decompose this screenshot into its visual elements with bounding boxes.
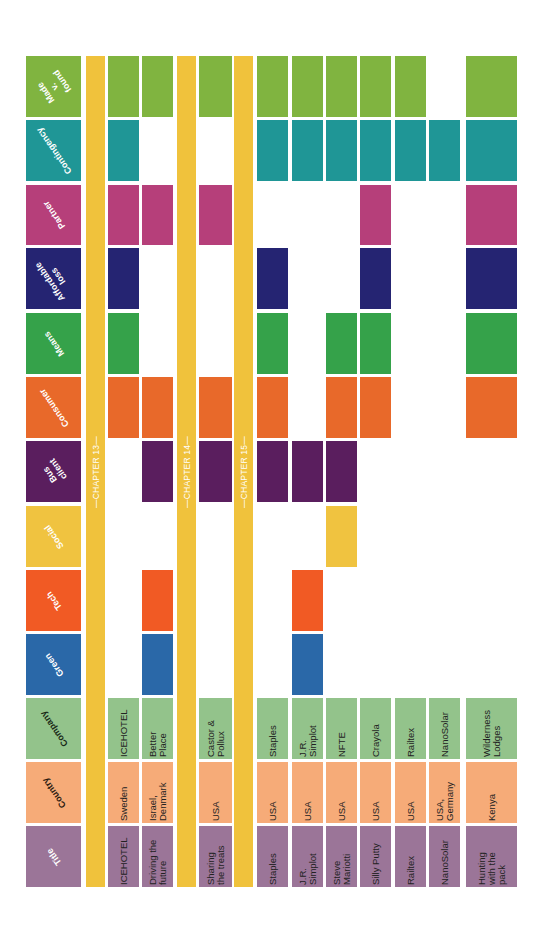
- cell-label: Contingency: [34, 125, 73, 175]
- cell-label: USA: [303, 765, 313, 821]
- company-cell: ICEHOTEL: [108, 698, 139, 759]
- cell-label: ICEHOTEL: [119, 701, 129, 757]
- made-v-found-marker: [108, 56, 139, 117]
- cell-label: Wilderness Lodges: [482, 701, 502, 757]
- company-cell: Crayola: [360, 698, 391, 759]
- cell-label: Bus client: [39, 456, 69, 487]
- cell-label: ICEHOTEL: [119, 829, 129, 885]
- green-marker: [292, 634, 323, 695]
- country-cell: USA: [292, 762, 323, 823]
- contingency-marker: [292, 120, 323, 181]
- header-social: Social: [26, 506, 81, 567]
- cell-label: Consumer: [37, 386, 71, 428]
- consumer-marker: [142, 377, 173, 438]
- cell-label: Means: [41, 329, 65, 358]
- made-v-found-marker: [326, 56, 357, 117]
- title-cell: Driving the future: [142, 826, 173, 887]
- header-consumer: Consumer: [26, 377, 81, 438]
- cell-label: USA: [371, 765, 381, 821]
- title-cell: Staples: [257, 826, 288, 887]
- cell-label: Railtex: [406, 829, 416, 885]
- title-cell: Railtex: [395, 826, 426, 887]
- cell-label: Country: [40, 776, 68, 810]
- cell-label: NFTE: [337, 701, 347, 757]
- chapter-divider: —CHAPTER 15—: [234, 56, 253, 887]
- company-cell: NFTE: [326, 698, 357, 759]
- bus-client-marker: [292, 441, 323, 502]
- consumer-marker: [108, 377, 139, 438]
- header-contingency: Contingency: [26, 120, 81, 181]
- social-marker: [326, 506, 357, 567]
- cell-label: J.R. Simplot: [298, 701, 318, 757]
- header-title: Title: [26, 826, 81, 887]
- header-affordable-loss: Affordable loss: [26, 248, 81, 309]
- chapter-label: —CHAPTER 15—: [239, 436, 249, 508]
- cell-label: USA, Germany: [435, 765, 455, 821]
- cell-label: Partner: [40, 199, 66, 231]
- means-marker: [360, 313, 391, 374]
- cell-label: Green: [42, 651, 65, 678]
- cell-label: Hunting with the pack: [477, 829, 507, 885]
- cell-label: Castor & Pollux: [206, 701, 226, 757]
- cell-label: NanoSolar: [440, 701, 450, 757]
- contingency-marker: [108, 120, 139, 181]
- means-marker: [326, 313, 357, 374]
- chapter-divider: —CHAPTER 13—: [86, 56, 105, 887]
- means-marker: [466, 313, 517, 374]
- tech-marker: [142, 570, 173, 631]
- country-cell: Kenya: [466, 762, 517, 823]
- title-cell: NanoSolar: [429, 826, 460, 887]
- means-marker: [257, 313, 288, 374]
- country-cell: USA: [326, 762, 357, 823]
- partner-marker: [108, 185, 139, 245]
- country-cell: Sweden: [108, 762, 139, 823]
- cell-label: Better Place: [148, 701, 168, 757]
- affordable-loss-marker: [257, 248, 288, 309]
- header-made-v-found: Made v. found: [26, 56, 81, 117]
- case-attribute-matrix: TitleCountryCompanyGreenTechSocialBus cl…: [0, 0, 543, 934]
- cell-label: Silly Putty: [371, 829, 381, 885]
- green-marker: [142, 634, 173, 695]
- cell-label: NanoSolar: [440, 829, 450, 885]
- company-cell: Better Place: [142, 698, 173, 759]
- chapter-divider: —CHAPTER 14—: [177, 56, 196, 887]
- bus-client-marker: [326, 441, 357, 502]
- country-cell: USA: [360, 762, 391, 823]
- cell-label: USA: [337, 765, 347, 821]
- title-cell: Hunting with the pack: [466, 826, 517, 887]
- cell-label: USA: [406, 765, 416, 821]
- title-cell: ICEHOTEL: [108, 826, 139, 887]
- bus-client-marker: [199, 441, 232, 502]
- country-cell: USA: [257, 762, 288, 823]
- chapter-label: —CHAPTER 14—: [182, 436, 192, 508]
- cell-label: Social: [42, 523, 65, 550]
- title-cell: Silly Putty: [360, 826, 391, 887]
- title-cell: Steve Mariotti: [326, 826, 357, 887]
- cell-label: J.R. Simplot: [298, 829, 318, 885]
- cell-label: Title: [44, 846, 63, 867]
- header-country: Country: [26, 762, 81, 823]
- contingency-marker: [360, 120, 391, 181]
- consumer-marker: [257, 377, 288, 438]
- cell-label: Kenya: [487, 765, 497, 821]
- cell-label: USA: [268, 765, 278, 821]
- company-cell: J.R. Simplot: [292, 698, 323, 759]
- cell-label: Sharing the treats: [206, 829, 226, 885]
- header-company: Company: [26, 698, 81, 759]
- made-v-found-marker: [142, 56, 173, 117]
- cell-label: Made v. found: [33, 67, 73, 107]
- partner-marker: [466, 185, 517, 245]
- cell-label: Affordable loss: [32, 254, 74, 302]
- title-cell: Sharing the treats: [199, 826, 232, 887]
- cell-label: Steve Mariotti: [332, 829, 352, 885]
- contingency-marker: [326, 120, 357, 181]
- cell-label: Crayola: [371, 701, 381, 757]
- contingency-marker: [257, 120, 288, 181]
- country-cell: USA, Germany: [429, 762, 460, 823]
- cell-label: Israel, Denmark: [148, 765, 168, 821]
- header-tech: Tech: [26, 570, 81, 631]
- contingency-marker: [395, 120, 426, 181]
- title-cell: J.R. Simplot: [292, 826, 323, 887]
- bus-client-marker: [142, 441, 173, 502]
- cell-label: Tech: [44, 589, 64, 611]
